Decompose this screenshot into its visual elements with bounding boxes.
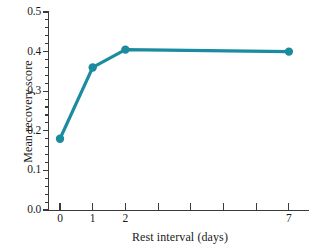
data-point-markers — [56, 45, 293, 143]
y-tick-minor — [45, 83, 49, 84]
data-point-marker — [285, 47, 293, 55]
y-tick-minor — [45, 162, 49, 163]
y-tick-minor — [45, 194, 49, 195]
data-point-marker — [56, 135, 64, 143]
x-tick-label: 2 — [115, 212, 135, 224]
chart-container: 0.00.10.20.30.40.5 0127 Mean recovery sc… — [0, 0, 316, 250]
x-axis-title: Rest interval (days) — [0, 231, 316, 244]
x-tick-major — [158, 203, 159, 210]
x-tick-major — [59, 203, 60, 210]
y-tick-major — [43, 91, 49, 92]
y-tick-minor — [45, 202, 49, 203]
y-tick-label: 0.0 — [27, 204, 41, 216]
data-line-series-1 — [60, 50, 289, 139]
y-tick-minor — [45, 19, 49, 20]
y-tick-major — [43, 51, 49, 52]
y-tick-minor — [45, 59, 49, 60]
y-tick-minor — [45, 106, 49, 107]
data-point-marker — [121, 45, 129, 53]
y-axis-line — [48, 12, 49, 211]
x-tick-label: 1 — [83, 212, 103, 224]
y-tick-minor — [45, 43, 49, 44]
x-tick-major — [288, 203, 289, 210]
y-tick-major — [43, 170, 49, 171]
x-tick-major — [125, 203, 126, 210]
x-tick-major — [256, 203, 257, 210]
x-tick-label: 0 — [50, 212, 70, 224]
y-tick-minor — [45, 75, 49, 76]
y-tick-minor — [45, 114, 49, 115]
y-tick-minor — [45, 154, 49, 155]
y-tick-minor — [45, 35, 49, 36]
x-tick-major — [190, 203, 191, 210]
y-tick-minor — [45, 178, 49, 179]
y-tick-minor — [45, 186, 49, 187]
y-tick-minor — [45, 99, 49, 100]
y-axis-title: Mean recovery score — [22, 32, 35, 192]
y-tick-label: 0.5 — [27, 6, 41, 18]
y-tick-major — [43, 209, 49, 210]
y-tick-minor — [45, 146, 49, 147]
x-axis-line — [47, 210, 309, 211]
y-tick-minor — [45, 122, 49, 123]
data-point-marker — [89, 63, 97, 71]
y-tick-major — [43, 11, 49, 12]
x-tick-major — [92, 203, 93, 210]
y-tick-major — [43, 130, 49, 131]
y-tick-minor — [45, 67, 49, 68]
x-tick-label: 7 — [279, 212, 299, 224]
y-tick-minor — [45, 27, 49, 28]
x-tick-major — [223, 203, 224, 210]
y-tick-minor — [45, 138, 49, 139]
